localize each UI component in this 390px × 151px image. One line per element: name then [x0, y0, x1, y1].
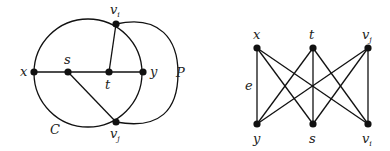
vertex-right-vi — [364, 120, 371, 127]
label-y: y — [149, 64, 158, 79]
label-right-t: t — [309, 27, 315, 42]
right-graph — [253, 44, 371, 127]
label-vi: vi — [110, 2, 120, 19]
right-graph-labels: x t vj y s vi e — [245, 27, 372, 148]
label-right-x: x — [253, 27, 261, 42]
path-p — [116, 22, 178, 124]
vertex-vi — [112, 20, 119, 27]
vertex-right-t — [309, 44, 316, 51]
label-t: t — [105, 77, 111, 92]
label-edge-e: e — [245, 78, 253, 93]
vertex-x — [30, 68, 37, 75]
vertex-y — [139, 68, 146, 75]
edge-t-vi — [109, 24, 116, 72]
label-cycle-c: C — [50, 122, 60, 137]
diagram-canvas: x s t y vi vj C P x t vj y s vi e — [0, 0, 390, 151]
label-vj: vj — [110, 126, 120, 143]
label-x: x — [20, 64, 28, 79]
vertex-right-vj — [364, 44, 371, 51]
vertex-s — [64, 68, 71, 75]
vertex-right-y — [253, 120, 260, 127]
vertex-right-x — [253, 44, 260, 51]
cycle-c — [34, 19, 142, 127]
label-right-s: s — [309, 131, 316, 146]
vertex-vj — [112, 118, 119, 125]
left-graph: x s t y vi vj C P — [20, 2, 185, 143]
label-right-vi: vi — [362, 131, 372, 148]
label-right-vj: vj — [362, 27, 372, 44]
vertex-t — [105, 68, 112, 75]
label-s: s — [64, 52, 71, 67]
label-right-y: y — [252, 131, 261, 146]
label-path-p: P — [175, 65, 185, 80]
vertex-right-s — [309, 120, 316, 127]
